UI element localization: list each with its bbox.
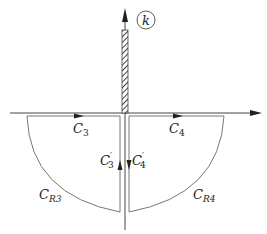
c4-arrow-icon <box>173 114 183 119</box>
k-plane-label: k <box>137 11 155 29</box>
k-label: k <box>142 13 150 28</box>
label-c3: C3 <box>73 121 89 138</box>
contour-diagram: k C3 C4 C′3 C′4 CR3 CR4 <box>0 0 267 234</box>
label-cr4: CR4 <box>193 187 216 204</box>
label-c4-prime: C′4 <box>132 151 146 170</box>
label-cr3: CR3 <box>39 187 62 204</box>
c3-arrow-icon <box>74 114 84 119</box>
arrow-up-icon <box>122 8 128 22</box>
label-c3-prime: C′3 <box>100 151 114 170</box>
real-axis <box>10 110 262 116</box>
c4p-arrow-icon <box>127 160 132 170</box>
label-c4: C4 <box>169 121 185 138</box>
branch-cut <box>122 30 128 113</box>
c3p-arrow-icon <box>118 160 123 170</box>
arrow-right-icon <box>250 110 262 116</box>
